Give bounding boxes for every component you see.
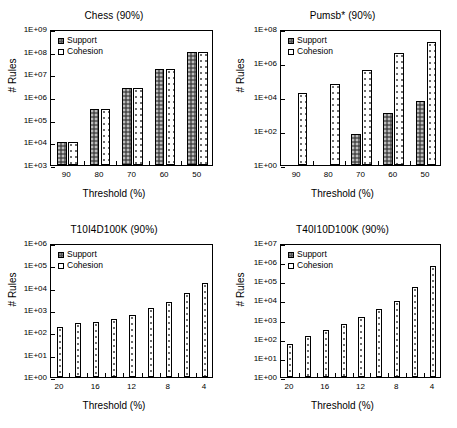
bar-cohesion: [57, 327, 63, 377]
y-axis-tick-mark: [281, 167, 285, 168]
y-axis-tick-label: 1E+05: [0, 262, 47, 270]
y-axis-tick-mark: [281, 360, 285, 361]
y-axis-tick-mark: [281, 31, 285, 32]
y-axis-tick-mark: [51, 357, 55, 358]
y-axis-tick-mark: [281, 322, 285, 323]
x-axis-tick-label: 16: [91, 383, 100, 391]
y-axis-tick-label: 1E+00: [228, 374, 277, 382]
y-axis-tick-mark: [281, 65, 285, 66]
y-axis-tick-label: 1E+02: [0, 329, 47, 337]
bar-support: [416, 101, 426, 165]
bar-cohesion: [430, 266, 436, 377]
x-axis-tick-mark: [345, 161, 346, 165]
y-axis-tick-label: 1E+05: [0, 117, 47, 125]
bar-cohesion: [394, 53, 404, 165]
x-axis-tick-label: 4: [202, 383, 206, 391]
y-axis-tick-mark: [51, 334, 55, 335]
legend-t10i4d100k: Support Cohesion: [58, 249, 103, 271]
y-axis-tick-mark: [281, 283, 285, 284]
y-axis-tick-label: 1E+07: [0, 71, 47, 79]
bar-cohesion: [133, 88, 143, 165]
y-axis-tick-mark: [51, 167, 55, 168]
bar-cohesion: [341, 324, 347, 377]
y-axis-tick-mark: [51, 122, 55, 123]
x-axis-tick-label: 80: [324, 171, 333, 179]
legend-item-cohesion: Cohesion: [58, 46, 103, 57]
legend-item-support: Support: [288, 249, 333, 260]
y-axis-tick-mark: [281, 302, 285, 303]
legend-item-support: Support: [58, 249, 103, 260]
y-axis-tick-label: 1E+05: [228, 278, 277, 286]
y-axis-tick-label: 1E+01: [0, 352, 47, 360]
x-axis-tick-label: 70: [127, 171, 136, 179]
y-axis-tick-label: 1E+03: [0, 162, 47, 170]
bar-cohesion: [68, 142, 78, 165]
x-axis-tick-label: 4: [430, 383, 434, 391]
x-axis-tick-mark: [317, 373, 318, 377]
x-axis-tick-label: 8: [394, 383, 398, 391]
y-axis-tick-label: 1E+02: [228, 336, 277, 344]
bar-cohesion: [323, 330, 329, 377]
x-axis-tick-mark: [388, 373, 389, 377]
x-axis-tick-mark: [370, 373, 371, 377]
bar-support: [155, 69, 165, 165]
y-axis-tick-mark: [51, 290, 55, 291]
legend-swatch-support-icon: [58, 38, 64, 44]
bar-cohesion: [184, 293, 190, 377]
x-axis-tick-label: 16: [320, 383, 329, 391]
x-axis-tick-mark: [149, 161, 150, 165]
y-axis-tick-mark: [51, 379, 55, 380]
x-axis-tick-mark: [142, 373, 143, 377]
x-axis-tick-label: 90: [292, 171, 301, 179]
y-axis-tick-label: 1E+04: [0, 285, 47, 293]
y-axis-tick-label: 1E+08: [0, 49, 47, 57]
y-axis-tick-label: 1E+07: [228, 240, 277, 248]
y-axis-tick-mark: [281, 379, 285, 380]
legend-label-cohesion: Cohesion: [67, 260, 103, 271]
x-axis-tick-label: 20: [55, 383, 64, 391]
y-axis-tick-mark: [281, 245, 285, 246]
y-axis-tick-label: 1E+06: [228, 259, 277, 267]
bar-support: [351, 134, 361, 165]
y-axis-tick-mark: [281, 133, 285, 134]
x-axis-tick-label: 60: [388, 171, 397, 179]
panel-t10i4d100k: T10I4D100K (90%) # Rules Support Cohesio…: [0, 214, 228, 428]
bar-support: [90, 109, 100, 165]
y-axis-tick-label: 1E+00: [228, 162, 277, 170]
legend-swatch-cohesion-icon: [288, 49, 294, 55]
x-axis-tick-label: 70: [356, 171, 365, 179]
y-axis-tick-mark: [281, 99, 285, 100]
x-axis-tick-label: 12: [127, 383, 136, 391]
legend-chess: Support Cohesion: [58, 35, 103, 57]
x-axis-tick-mark: [353, 373, 354, 377]
y-axis-tick-label: 1E+08: [228, 26, 277, 34]
y-axis-tick-mark: [51, 267, 55, 268]
bar-cohesion: [129, 315, 135, 377]
bar-cohesion: [330, 84, 340, 165]
y-axis-tick-label: 1E+03: [0, 307, 47, 315]
x-axis-tick-mark: [378, 161, 379, 165]
legend-label-support: Support: [67, 35, 97, 46]
bar-support: [57, 142, 67, 165]
x-axis-tick-mark: [335, 373, 336, 377]
legend-label-support: Support: [297, 249, 327, 260]
x-axis-tick-mark: [196, 373, 197, 377]
legend-swatch-cohesion-icon: [58, 263, 64, 269]
y-axis-tick-mark: [51, 312, 55, 313]
bar-cohesion: [427, 42, 437, 165]
legend-t40i10d100k: Support Cohesion: [288, 249, 333, 271]
y-axis-tick-label: 1E+03: [228, 317, 277, 325]
bar-cohesion: [376, 309, 382, 377]
y-axis-tick-mark: [51, 76, 55, 77]
x-axis-tick-label: 50: [192, 171, 201, 179]
x-axis-tick-mark: [410, 161, 411, 165]
legend-swatch-support-icon: [288, 252, 294, 258]
x-axis-tick-mark: [181, 161, 182, 165]
y-axis-tick-label: 1E+06: [228, 60, 277, 68]
x-axis-tick-label: 20: [284, 383, 293, 391]
legend-swatch-cohesion-icon: [58, 49, 64, 55]
y-axis-tick-label: 1E+01: [228, 355, 277, 363]
x-axis-tick-label: 60: [160, 171, 169, 179]
bar-cohesion: [362, 70, 372, 165]
y-axis-tick-mark: [51, 99, 55, 100]
